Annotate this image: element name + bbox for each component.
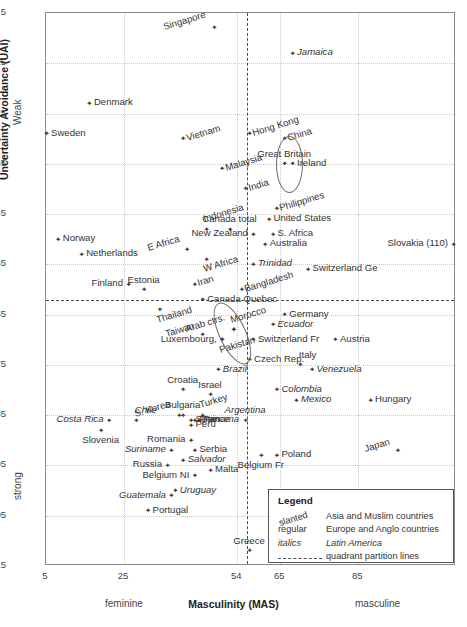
point-marker-icon bbox=[243, 418, 248, 423]
point-label: Australia bbox=[270, 238, 307, 248]
point-marker-icon bbox=[246, 131, 251, 136]
point-marker-icon bbox=[250, 232, 255, 237]
x-axis-end-feminine: feminine bbox=[105, 598, 143, 609]
point-marker-icon bbox=[164, 463, 169, 468]
point-marker-icon bbox=[250, 337, 255, 342]
point-marker-icon bbox=[200, 297, 205, 302]
gridline-horizontal bbox=[46, 63, 454, 64]
point-label: Slovakia (110) bbox=[387, 238, 448, 248]
point-label: Suriname bbox=[125, 444, 166, 454]
point-marker-icon bbox=[145, 508, 150, 513]
point-marker-icon bbox=[98, 428, 103, 433]
point-marker-icon bbox=[274, 387, 279, 392]
x-tick-label: 65 bbox=[259, 570, 299, 581]
point-marker-icon bbox=[176, 413, 181, 418]
point-marker-icon bbox=[106, 418, 111, 423]
point-label: Brazil bbox=[223, 364, 247, 374]
x-axis-end-masculine: masculine bbox=[355, 598, 400, 609]
point-label: Trinidad bbox=[258, 258, 292, 268]
point-marker-icon bbox=[207, 468, 212, 473]
gridline-vertical bbox=[358, 13, 359, 564]
point-marker-icon bbox=[180, 387, 185, 392]
y-tick-label: 115 bbox=[0, 559, 6, 570]
y-tick-label: 25 bbox=[0, 107, 6, 118]
point-marker-icon bbox=[180, 136, 185, 141]
point-label: Ecuador bbox=[277, 319, 313, 329]
point-marker-icon bbox=[43, 131, 48, 136]
point-marker-icon bbox=[243, 186, 248, 191]
point-label: Philippines bbox=[278, 190, 325, 213]
y-tick-label: 95 bbox=[0, 458, 6, 469]
point-marker-icon bbox=[270, 232, 275, 237]
point-label: Belgium NI bbox=[142, 470, 189, 480]
point-label: New Zealand bbox=[191, 228, 248, 238]
point-marker-icon bbox=[368, 398, 373, 403]
point-label: Croatia bbox=[167, 375, 198, 385]
point-marker-icon bbox=[332, 337, 337, 342]
point-label: Estonia bbox=[128, 275, 160, 285]
point-marker-icon bbox=[196, 418, 201, 423]
point-marker-icon bbox=[172, 488, 177, 493]
x-tick-label: 85 bbox=[337, 570, 377, 581]
y-tick-label: 65 bbox=[0, 308, 6, 319]
legend-value: Asia and Muslim countries bbox=[326, 511, 433, 521]
point-label: Japan bbox=[363, 437, 391, 454]
point-label: Singapore bbox=[162, 10, 207, 32]
y-tick-label: 45 bbox=[0, 207, 6, 218]
point-marker-icon bbox=[79, 252, 84, 257]
gridline-horizontal bbox=[46, 365, 454, 366]
point-marker-icon bbox=[297, 362, 302, 367]
plot-area: SingaporeJamaicaDenmarkSwedenVietnamHong… bbox=[45, 12, 455, 565]
point-marker-icon bbox=[211, 25, 216, 30]
point-label: Switzerland Ge bbox=[313, 263, 378, 273]
point-label: Poland bbox=[281, 449, 311, 459]
y-tick-label: 55 bbox=[0, 257, 6, 268]
point-marker-icon bbox=[239, 287, 244, 292]
point-marker-icon bbox=[246, 548, 251, 553]
point-marker-icon bbox=[180, 458, 185, 463]
point-label: Malta bbox=[215, 464, 238, 474]
point-label: Portugal bbox=[153, 505, 189, 515]
x-tick-label: 5 bbox=[25, 570, 65, 581]
point-label: Finland bbox=[92, 278, 123, 288]
point-label: Iran bbox=[196, 274, 215, 288]
y-tick-label: 15 bbox=[0, 56, 6, 67]
point-label: Luxembourg, bbox=[161, 334, 217, 344]
point-label: Switzerland Fr bbox=[258, 334, 319, 344]
point-marker-icon bbox=[184, 247, 189, 252]
point-marker-icon bbox=[305, 267, 310, 272]
point-label: Russia bbox=[133, 459, 162, 469]
point-marker-icon bbox=[258, 453, 263, 458]
point-marker-icon bbox=[215, 367, 220, 372]
point-marker-icon bbox=[262, 242, 267, 247]
y-tick-label: 85 bbox=[0, 408, 6, 419]
partition-line-swatch-icon bbox=[278, 558, 322, 559]
legend-row: italicsLatin America bbox=[278, 537, 446, 548]
point-marker-icon bbox=[274, 453, 279, 458]
y-tick-label: 5 bbox=[0, 6, 6, 17]
ellipse-highlight bbox=[276, 136, 303, 193]
point-label: Jamaica bbox=[297, 47, 333, 57]
point-label: Austria bbox=[340, 334, 370, 344]
y-tick-label: 75 bbox=[0, 358, 6, 369]
point-marker-icon bbox=[168, 448, 173, 453]
point-marker-icon bbox=[282, 312, 287, 317]
point-label: Norway bbox=[63, 233, 96, 243]
point-label: Vietnam bbox=[185, 123, 221, 143]
point-marker-icon bbox=[293, 398, 298, 403]
point-marker-icon bbox=[141, 287, 146, 292]
legend-key: italics bbox=[278, 538, 326, 548]
point-label: Israel bbox=[198, 380, 221, 390]
point-label: Belgium Fr bbox=[238, 460, 284, 470]
point-label: Hungary bbox=[375, 394, 411, 404]
point-marker-icon bbox=[55, 237, 60, 242]
point-marker-icon bbox=[86, 101, 91, 106]
point-label: Malaysia bbox=[224, 152, 263, 173]
point-marker-icon bbox=[274, 206, 279, 211]
chart-root: Uncertainty Avoidance (UAI) Weak strong … bbox=[0, 0, 467, 627]
legend-rows: slantedAsia and Muslim countriesregularE… bbox=[278, 510, 446, 562]
point-label: Canada total bbox=[202, 214, 256, 224]
point-label: Venezuela bbox=[317, 364, 362, 374]
point-marker-icon bbox=[192, 448, 197, 453]
legend-row: slantedAsia and Muslim countries bbox=[278, 510, 446, 521]
